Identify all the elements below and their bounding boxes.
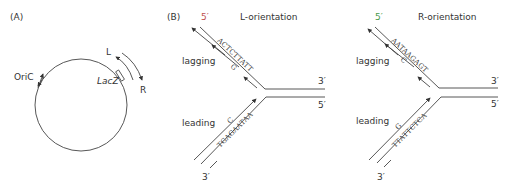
leading-label: leading	[356, 116, 389, 126]
right-five-prime-label: 5′	[491, 99, 499, 109]
oric-label: OriC	[14, 72, 34, 82]
orientation-title: R-orientation	[418, 12, 477, 22]
plasmid-circle	[35, 59, 127, 151]
lagging-label: lagging	[356, 56, 389, 66]
panel-a-label: (A)	[10, 12, 23, 22]
okazaki-arrow-icon	[244, 77, 257, 88]
parental-strand-bottom	[377, 97, 498, 163]
panel-a: (A) OriC LacZ L R	[10, 12, 146, 151]
panel-b-r-orientation: 5′ R-orientation AATAAGAGT C TTATTCTCA G…	[356, 12, 499, 182]
top-five-prime-label: 5′	[375, 12, 383, 22]
leading-template-end	[210, 161, 217, 168]
leading-strand-arrow-icon	[194, 99, 256, 160]
leading-sequence: TGAGAATAA	[216, 110, 255, 149]
lagging-mismatch: G	[229, 63, 239, 73]
right-three-prime-label: 3′	[491, 76, 499, 86]
parental-strand-bottom	[201, 97, 325, 164]
l-label: L	[106, 47, 111, 57]
lagging-mismatch: C	[399, 56, 409, 66]
bottom-three-prime-label: 3′	[202, 172, 210, 182]
leading-sequence: TTATTCTCA	[391, 111, 429, 149]
leading-mismatch: C	[226, 116, 236, 126]
lagging-sequence: AATAAGAGT	[389, 36, 430, 75]
bottom-three-prime-label: 3′	[377, 172, 385, 182]
right-five-prime-label: 5′	[318, 100, 326, 110]
top-five-prime-label: 5′	[201, 12, 209, 22]
replication-diagram: (A) OriC LacZ L R (B) 5′ L-orientation A…	[0, 0, 515, 184]
parental-strand-top	[200, 27, 325, 89]
lacz-label: LacZ	[97, 76, 119, 86]
r-label: R	[140, 85, 146, 95]
right-three-prime-label: 3′	[318, 76, 326, 86]
panel-b-l-orientation: (B) 5′ L-orientation ACTCTTATT G TGAGAAT…	[167, 12, 326, 182]
orientation-title: L-orientation	[240, 12, 298, 22]
panel-b-label: (B)	[167, 12, 180, 22]
okazaki-arrow-icon	[418, 77, 430, 87]
parental-strand-top	[375, 27, 498, 88]
lagging-label: lagging	[182, 56, 215, 66]
leading-template-end	[384, 160, 391, 167]
oric-arrow-down-icon	[38, 78, 43, 86]
leading-label: leading	[182, 118, 215, 128]
leading-mismatch: G	[394, 122, 404, 132]
